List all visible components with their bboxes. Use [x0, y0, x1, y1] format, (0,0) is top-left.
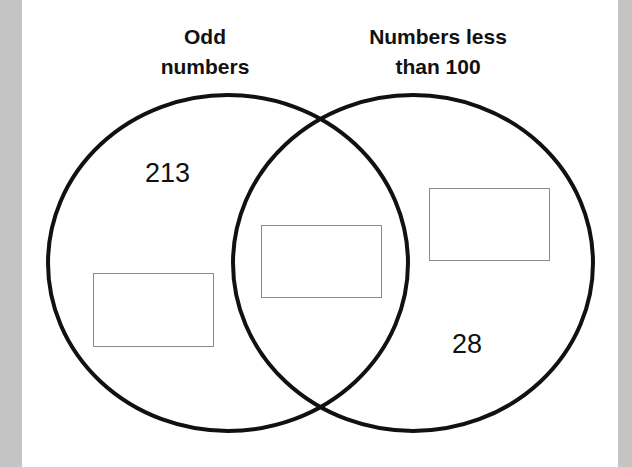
- answer-box-left-only[interactable]: [93, 273, 214, 347]
- answer-box-intersection[interactable]: [261, 225, 382, 298]
- answer-box-right-only[interactable]: [429, 188, 550, 261]
- left-region-number: 213: [145, 160, 190, 187]
- right-region-number: 28: [452, 331, 482, 358]
